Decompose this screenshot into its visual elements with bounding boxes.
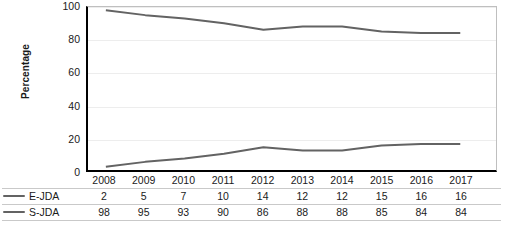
y-axis-tick-labels: 020406080100	[52, 6, 80, 172]
table-cell: 16	[399, 188, 443, 204]
x-axis-tick-label: 2009	[122, 174, 166, 186]
table-cell: 98	[82, 204, 126, 220]
legend-line-icon	[3, 211, 25, 213]
table-cell: 7	[161, 188, 205, 204]
x-axis-tick-label: 2014	[320, 174, 364, 186]
table-value-cells: 25710141212151616	[86, 188, 497, 204]
legend-key-s-jda: S-JDA	[3, 204, 83, 220]
table-cell: 12	[280, 188, 324, 204]
y-axis-tick-label: 80	[52, 34, 80, 44]
table-cell: 84	[399, 204, 443, 220]
table-cell: 12	[320, 188, 364, 204]
series-lines	[88, 7, 496, 170]
table-cell: 2	[82, 188, 126, 204]
x-axis-tick-label: 2008	[82, 174, 126, 186]
y-axis-tick-label: 100	[52, 1, 80, 11]
series-line-s-jda	[106, 10, 460, 33]
legend-line-icon	[3, 195, 25, 197]
table-cell: 86	[241, 204, 285, 220]
series-line-e-jda	[106, 144, 460, 167]
chart-figure: Percentage 020406080100 2008200920102011…	[0, 0, 505, 230]
y-axis-tick-label: 40	[52, 101, 80, 111]
table-cell: 88	[280, 204, 324, 220]
x-axis-tick-label: 2011	[201, 174, 245, 186]
y-axis-tick-label: 60	[52, 67, 80, 77]
table-cell: 84	[439, 204, 483, 220]
table-row: E-JDA25710141212151616	[0, 188, 505, 204]
table-cell: 10	[201, 188, 245, 204]
table-cell: 14	[241, 188, 285, 204]
y-axis-tick-label: 20	[52, 134, 80, 144]
y-axis-title: Percentage	[20, 27, 31, 117]
x-axis-tick-label: 2016	[399, 174, 443, 186]
table-row: S-JDA98959390868888858484	[0, 204, 505, 220]
table-value-cells: 98959390868888858484	[86, 204, 497, 220]
plot-area	[86, 6, 497, 172]
table-cell: 85	[360, 204, 404, 220]
y-axis-tick-label: 0	[52, 167, 80, 177]
table-cell: 15	[360, 188, 404, 204]
x-axis-tick-label: 2012	[241, 174, 285, 186]
x-axis-tick-labels: 2008200920102011201220132014201520162017	[86, 174, 497, 188]
x-axis-tick-label: 2010	[161, 174, 205, 186]
table-cell: 93	[161, 204, 205, 220]
line-chart: Percentage 020406080100 2008200920102011…	[0, 0, 505, 172]
table-cell: 95	[122, 204, 166, 220]
table-cell: 16	[439, 188, 483, 204]
table-cell: 5	[122, 188, 166, 204]
legend-key-e-jda: E-JDA	[3, 188, 83, 204]
x-axis-tick-label: 2015	[360, 174, 404, 186]
x-axis-tick-label: 2017	[439, 174, 483, 186]
chart-data-table: E-JDA25710141212151616S-JDA9895939086888…	[0, 188, 505, 230]
table-cell: 90	[201, 204, 245, 220]
table-rule	[2, 220, 501, 221]
legend-label: S-JDA	[29, 204, 59, 220]
legend-label: E-JDA	[29, 188, 59, 204]
x-axis-tick-label: 2013	[280, 174, 324, 186]
table-cell: 88	[320, 204, 364, 220]
